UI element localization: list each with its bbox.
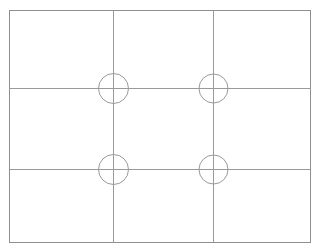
diagram-canvas [0, 0, 320, 251]
grid-diagram [0, 0, 320, 251]
canvas-background [0, 0, 320, 251]
